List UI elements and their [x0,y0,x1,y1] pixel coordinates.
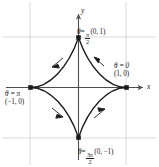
fraction-denominator-top: 2 [85,39,90,45]
point-coordinates-top: (0, 1) [90,28,105,36]
direction-arrow-upper-right [94,57,104,66]
fraction-denominator-bottom: 2 [87,159,92,165]
point-coordinates-left: (−1, 0) [5,98,24,106]
label-theta-3pi-over-2: θ=3π2(0, −1) [78,148,113,165]
y-axis-label: y [81,6,84,15]
astroid-figure: y x θ=π2(0, 1) θ = 0 (1, 0) θ = π (−1, 0… [0,0,159,167]
theta-text-left: θ = π [5,90,24,98]
theta-text-right: θ = 0 [114,62,129,70]
direction-arrow-lower-right [94,108,105,118]
equals-bottom: = [81,148,85,156]
cusp-marker-bottom [76,135,81,140]
x-axis-label: x [147,82,150,91]
fraction-numerator-bottom: 3π [86,152,94,159]
label-theta-pi: θ = π (−1, 0) [5,90,24,106]
direction-arrow-lower-left [52,108,63,118]
point-coordinates-bottom: (0, −1) [94,148,113,156]
label-theta-zero: θ = 0 (1, 0) [114,62,129,78]
gridlines [3,2,156,165]
cusp-marker-left [28,85,33,90]
fraction-3pi-over-2: 3π2 [86,152,94,166]
direction-arrow-upper-left [52,58,63,68]
point-coordinates-right: (1, 0) [114,70,129,78]
label-theta-pi-over-2: θ=π2(0, 1) [77,28,105,45]
plot-canvas [0,0,159,167]
cusp-marker-right [124,85,129,90]
equals-top: = [80,28,84,36]
